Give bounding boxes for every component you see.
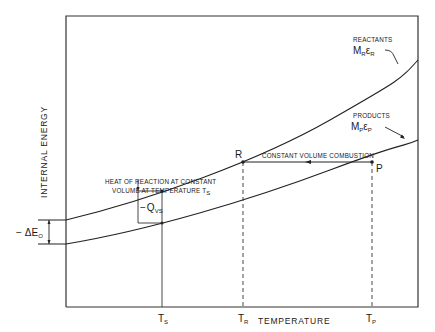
x-axis-label: TEMPERATURE <box>258 316 330 326</box>
delta-e-arrow-down <box>48 240 51 244</box>
reactants-leader <box>385 50 398 64</box>
tick-tr: TR <box>238 313 249 325</box>
qvs-label: −QVS <box>140 202 163 214</box>
heat-label-line2: VOLUME AT TEMPERATURE TS <box>112 187 211 196</box>
energy-temperature-diagram: REACTANTS MRεR PRODUCTS MPεP R P CONSTAN… <box>0 0 435 332</box>
products-leader <box>385 127 404 137</box>
point-r-label: R <box>235 149 242 160</box>
delta-e-arrow-up <box>48 220 51 224</box>
point-r-dot <box>241 160 245 164</box>
process-label: CONSTANT VOLUME COMBUSTION <box>262 152 374 159</box>
delta-e-label: −ΔEO <box>16 227 43 239</box>
y-axis-label: INTERNAL ENERGY <box>39 106 49 198</box>
reactants-symbol: MRεR <box>353 45 375 57</box>
products-symbol: MPεP <box>351 121 372 133</box>
point-p-dot <box>370 160 374 164</box>
reactants-title: REACTANTS <box>353 36 392 43</box>
point-p-label: P <box>376 163 383 174</box>
products-title: PRODUCTS <box>353 112 390 119</box>
tick-tp: TP <box>366 313 376 325</box>
heat-label-line1: HEAT OF REACTION AT CONSTANT <box>105 178 216 185</box>
tick-ts: TS <box>158 313 168 325</box>
reactants-curve <box>66 60 418 220</box>
combustion-arrow <box>305 160 311 164</box>
